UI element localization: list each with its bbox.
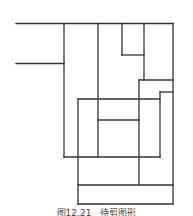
clipping-diagram	[0, 0, 193, 216]
figure-caption: 图12.21 待剪图形	[0, 208, 193, 216]
